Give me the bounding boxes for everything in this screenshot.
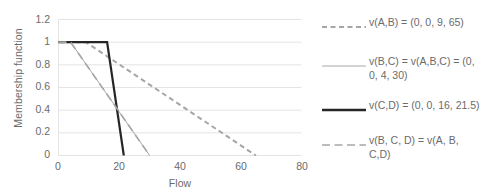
legend-marker-solid-thick bbox=[322, 102, 368, 114]
chart-container: Membership function 1.2 1 0.8 0.6 0.4 0.… bbox=[0, 0, 482, 195]
series-lines bbox=[59, 42, 256, 155]
legend-label: v(B, C, D) = v(A, B, C,D) bbox=[369, 134, 459, 161]
legend-item-v-bc: v(B,C) = v(A,B,C) = (0, 0, 4, 30) bbox=[322, 55, 482, 82]
gridlines bbox=[59, 20, 302, 156]
series-line bbox=[59, 42, 256, 155]
legend-marker-dashed bbox=[322, 19, 368, 31]
legend-item-v-cd: v(C,D) = (0, 0, 16, 21.5) bbox=[322, 99, 482, 114]
series-line bbox=[59, 42, 150, 155]
series-line bbox=[59, 42, 124, 155]
legend-label: v(C,D) = (0, 0, 16, 21.5) bbox=[369, 99, 480, 113]
legend-marker-solid-thin bbox=[322, 58, 368, 70]
legend-item-v-ab: v(A,B) = (0, 0, 9, 65) bbox=[322, 16, 482, 31]
legend-item-v-bcd: v(B, C, D) = v(A, B, C,D) bbox=[322, 134, 482, 161]
legend-label: v(A,B) = (0, 0, 9, 65) bbox=[369, 16, 464, 30]
legend-marker-longdash bbox=[322, 137, 368, 149]
series-line bbox=[59, 42, 150, 155]
legend-label: v(B,C) = v(A,B,C) = (0, 0, 4, 30) bbox=[369, 55, 475, 82]
